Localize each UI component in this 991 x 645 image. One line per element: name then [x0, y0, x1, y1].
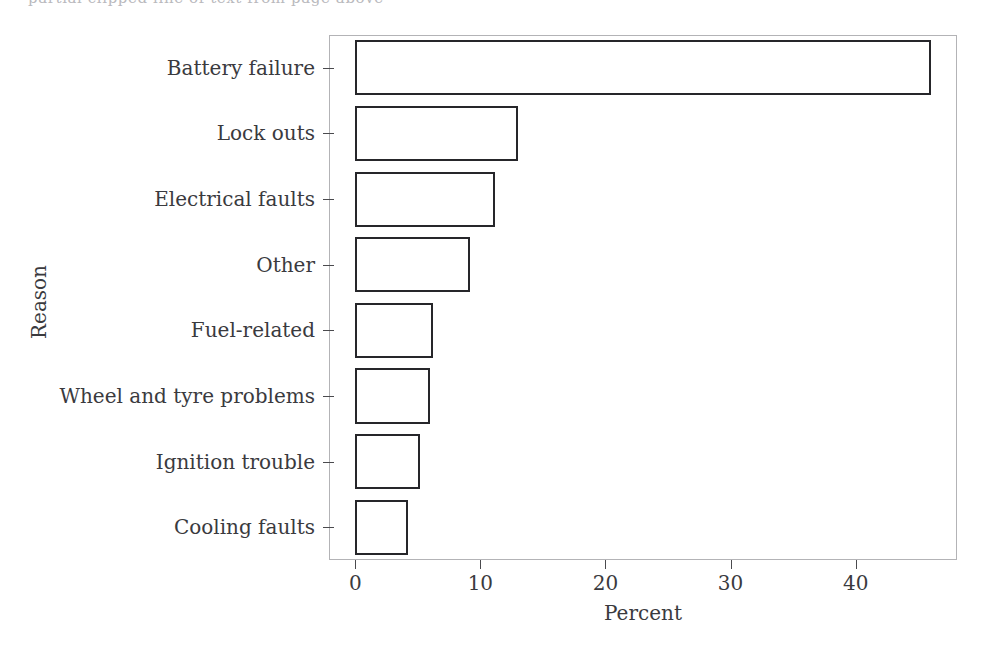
y-axis-tick-label: Lock outs: [15, 123, 315, 143]
bar: [355, 500, 408, 555]
y-axis-tick-label: Electrical faults: [15, 189, 315, 209]
y-axis-title: Reason: [27, 242, 51, 362]
bar: [355, 172, 495, 227]
y-axis-tick: [323, 462, 334, 463]
y-axis-tick-label: Other: [15, 255, 315, 275]
x-axis-tick: [355, 560, 356, 569]
y-axis-tick: [323, 199, 334, 200]
y-axis-tick: [323, 265, 334, 266]
y-axis-tick-label: Ignition trouble: [15, 452, 315, 472]
x-axis-tick-label: 40: [826, 571, 886, 595]
x-axis-tick-label: 30: [701, 571, 761, 595]
x-axis-title: Percent: [329, 601, 957, 625]
y-axis-tick-label: Fuel-related: [15, 320, 315, 340]
y-axis-tick-labels: Battery failureLock outsElectrical fault…: [10, 0, 315, 645]
bar: [355, 40, 930, 95]
y-axis-tick-label: Cooling faults: [15, 517, 315, 537]
y-axis-tick: [323, 68, 334, 69]
x-axis-tick: [856, 560, 857, 569]
y-axis-tick: [323, 396, 334, 397]
y-axis-tick-label: Wheel and tyre problems: [15, 386, 315, 406]
x-axis-tick: [605, 560, 606, 569]
bar: [355, 368, 430, 423]
bar: [355, 106, 518, 161]
bar: [355, 434, 420, 489]
x-axis-tick-label: 20: [575, 571, 635, 595]
y-axis-tick-label: Battery failure: [15, 58, 315, 78]
y-axis-tick: [323, 330, 334, 331]
bar-series: [329, 35, 957, 560]
y-axis-tick: [323, 133, 334, 134]
x-axis-tick-label: 10: [450, 571, 510, 595]
bar-chart-figure: partial clipped line of text from page a…: [0, 0, 991, 645]
bar: [355, 303, 433, 358]
x-axis-tick: [480, 560, 481, 569]
bar: [355, 237, 470, 292]
x-axis-tick: [731, 560, 732, 569]
x-axis-tick-label: 0: [325, 571, 385, 595]
y-axis-tick: [323, 527, 334, 528]
